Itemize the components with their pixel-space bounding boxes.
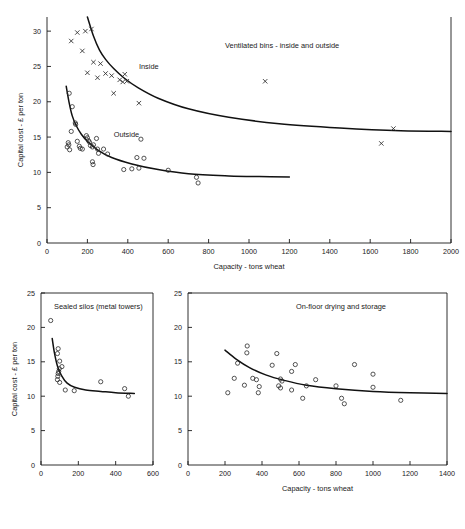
y-tick-label: 25 — [33, 62, 41, 71]
x-tick-label: 1400 — [439, 469, 455, 478]
y-tick-label: 10 — [33, 168, 41, 177]
chart-panel-on-floor-drying: 02004006008001000120014000510152025Capac… — [174, 289, 455, 493]
data-point-circle — [56, 347, 60, 351]
y-tick-label: 20 — [174, 323, 182, 332]
data-point-circle — [371, 372, 375, 376]
y-tick-label: 30 — [33, 27, 41, 36]
data-point-circle — [63, 388, 67, 392]
x-tick-label: 1000 — [365, 469, 381, 478]
data-point-circle — [342, 402, 346, 406]
data-point-circle — [123, 387, 127, 391]
x-tick-label: 1200 — [402, 469, 418, 478]
series-outside: Outside — [65, 86, 289, 185]
data-point-circle — [69, 129, 73, 133]
data-point-circle — [196, 181, 200, 185]
data-point-circle — [352, 362, 356, 366]
panel-title: Ventilated bins - inside and outside — [225, 41, 339, 50]
chart-panel-ventilated-bins: 0200400600800100012001400160018002000051… — [16, 17, 459, 271]
figure-capital-cost-charts: 0200400600800100012001400160018002000051… — [0, 0, 465, 529]
x-tick-label: 400 — [110, 469, 122, 478]
charts-svg: 0200400600800100012001400160018002000051… — [0, 0, 465, 529]
data-point-circle — [94, 136, 98, 140]
x-tick-label: 800 — [203, 247, 215, 256]
fit-curve — [66, 86, 289, 177]
data-point-circle — [293, 362, 297, 366]
series-label-inside: Inside — [139, 62, 159, 71]
data-point-circle — [70, 105, 74, 109]
data-point-circle — [245, 351, 249, 355]
series-sealed-silos — [49, 318, 135, 398]
x-tick-label: 400 — [256, 469, 268, 478]
data-point-circle — [142, 156, 146, 160]
data-point-circle — [290, 369, 294, 373]
y-tick-label: 15 — [27, 357, 35, 366]
y-tick-label: 5 — [37, 203, 41, 212]
y-tick-label: 0 — [31, 461, 35, 470]
data-point-cross — [379, 141, 383, 145]
y-axis-title: Capital cost - £ per ton — [10, 342, 19, 416]
x-tick-label: 1800 — [403, 247, 419, 256]
x-tick-label: 400 — [122, 247, 134, 256]
y-tick-label: 0 — [178, 461, 182, 470]
data-point-circle — [245, 344, 249, 348]
data-point-circle — [135, 155, 139, 159]
y-tick-label: 10 — [27, 392, 35, 401]
series-label-outside: Outside — [114, 130, 139, 139]
x-tick-label: 0 — [186, 469, 190, 478]
panel-title: Sealed silos (metal towers) — [54, 302, 143, 311]
data-point-circle — [99, 380, 103, 384]
y-tick-label: 0 — [37, 239, 41, 248]
y-tick-label: 10 — [174, 392, 182, 401]
x-tick-label: 2000 — [443, 247, 459, 256]
data-point-circle — [122, 167, 126, 171]
x-tick-label: 1600 — [362, 247, 378, 256]
data-point-circle — [235, 361, 239, 365]
data-point-cross — [109, 73, 113, 77]
data-point-cross — [137, 101, 141, 105]
data-point-cross — [118, 78, 122, 82]
data-point-circle — [257, 384, 261, 388]
data-point-cross — [263, 79, 267, 83]
panel-title: On-floor drying and storage — [296, 302, 386, 311]
data-point-circle — [75, 139, 79, 143]
x-tick-label: 0 — [45, 247, 49, 256]
x-tick-label: 1200 — [281, 247, 297, 256]
y-tick-label: 15 — [174, 357, 182, 366]
x-tick-label: 600 — [162, 247, 174, 256]
data-point-circle — [270, 363, 274, 367]
fit-curve — [225, 350, 447, 393]
y-tick-label: 15 — [33, 133, 41, 142]
fit-curve — [87, 17, 451, 131]
data-point-circle — [68, 148, 72, 152]
y-tick-label: 20 — [27, 323, 35, 332]
data-point-cross — [103, 71, 107, 75]
data-point-circle — [101, 147, 105, 151]
x-tick-label: 600 — [147, 469, 159, 478]
y-tick-label: 25 — [174, 289, 182, 298]
x-axis-title: Capacity - tons wheat — [213, 262, 284, 271]
data-point-cross — [111, 91, 115, 95]
data-point-circle — [139, 137, 143, 141]
data-point-circle — [126, 394, 130, 398]
data-point-cross — [80, 49, 84, 53]
y-tick-label: 25 — [27, 289, 35, 298]
y-tick-label: 5 — [178, 426, 182, 435]
data-point-circle — [371, 385, 375, 389]
data-point-cross — [98, 61, 102, 65]
chart-panel-sealed-silos: 02004006000510152025Capital cost - £ per… — [10, 289, 159, 478]
data-point-cross — [123, 72, 127, 76]
data-point-circle — [399, 398, 403, 402]
data-point-circle — [232, 376, 236, 380]
series-on-floor-drying-and-storage — [225, 344, 447, 406]
data-point-cross — [121, 80, 125, 84]
data-point-circle — [275, 351, 279, 355]
x-tick-label: 200 — [219, 469, 231, 478]
x-tick-label: 0 — [39, 469, 43, 478]
data-point-circle — [137, 166, 141, 170]
data-point-circle — [91, 163, 95, 167]
y-tick-label: 5 — [31, 426, 35, 435]
data-point-circle — [254, 378, 258, 382]
data-point-circle — [256, 391, 260, 395]
data-point-cross — [85, 71, 89, 75]
series-inside: Inside — [69, 17, 451, 146]
